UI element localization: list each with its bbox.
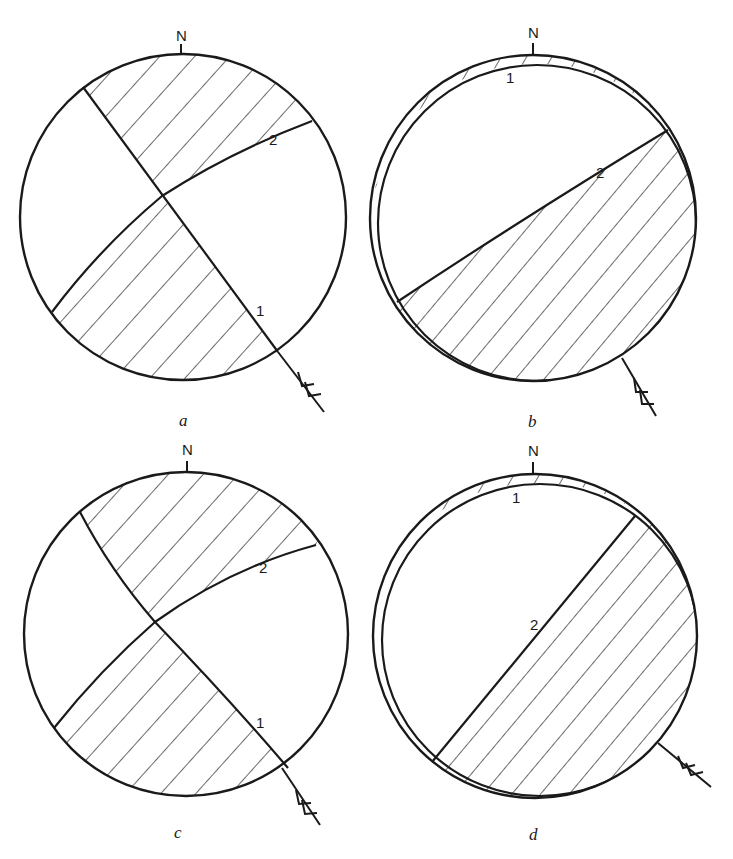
panel-label-d: d — [529, 825, 538, 844]
compressional-quadrants-c — [20, 450, 360, 820]
focal-mechanism-figure: N 2 1 a N 1 2 b — [0, 0, 733, 859]
slip-arrow-b — [622, 358, 656, 416]
panel-a: N 2 1 a — [20, 27, 360, 430]
plane-2-label-a: 2 — [269, 131, 277, 148]
north-label-a: N — [176, 27, 187, 44]
slip-arrow-c — [282, 768, 320, 825]
panel-label-b: b — [528, 412, 537, 431]
compressional-quadrants-a — [20, 40, 360, 400]
plane-2-label-c: 2 — [259, 559, 267, 576]
panel-b: N 1 2 b — [360, 24, 720, 431]
panel-c: N 2 1 c — [20, 441, 360, 842]
panel-label-c: c — [174, 823, 182, 842]
slip-arrow-d — [658, 743, 711, 787]
plane-2-label-b: 2 — [596, 164, 604, 181]
panel-d: N 1 2 d — [373, 442, 720, 844]
plane-1-label-a: 1 — [256, 302, 264, 319]
compressional-regions-b — [360, 55, 720, 420]
north-label-d: N — [528, 442, 539, 459]
panel-label-a: a — [179, 411, 188, 430]
north-label-c: N — [182, 441, 193, 458]
plane-1-label-b: 1 — [506, 69, 514, 86]
plane-2-label-d: 2 — [530, 616, 538, 633]
plane-1-label-d: 1 — [512, 489, 520, 506]
plane-1-label-c: 1 — [256, 714, 264, 731]
north-label-b: N — [528, 24, 539, 41]
slip-arrow-a — [278, 352, 324, 412]
